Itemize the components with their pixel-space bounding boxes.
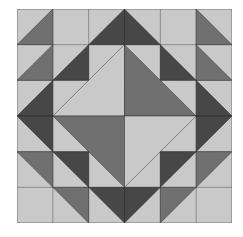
quilt-block xyxy=(17,9,232,223)
